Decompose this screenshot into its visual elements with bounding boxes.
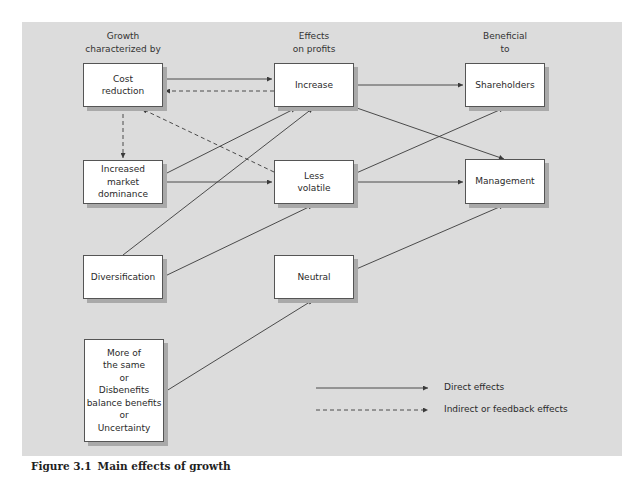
- node-increase: Increase: [274, 63, 354, 107]
- node-label: More of the same or Disbenefits balance …: [87, 347, 162, 435]
- legend-direct-label: Direct effects: [444, 382, 504, 392]
- figure-title: Main effects of growth: [98, 460, 231, 472]
- node-label: Neutral: [297, 271, 330, 284]
- edge-neutral-to-management: [354, 205, 504, 270]
- figure-number: Figure 3.1: [31, 460, 92, 472]
- node-label: Increased market dominance: [98, 163, 148, 201]
- node-label: Shareholders: [475, 79, 534, 92]
- figure-caption: Figure 3.1Main effects of growth: [31, 460, 231, 472]
- node-label: Management: [475, 175, 534, 188]
- edge-increase-to-management: [354, 107, 504, 159]
- node-neutral: Neutral: [274, 255, 354, 299]
- node-shareholders: Shareholders: [465, 63, 545, 107]
- edge-more-to-neutral: [163, 300, 313, 393]
- node-more-of-the-same: More of the same or Disbenefits balance …: [84, 339, 164, 442]
- node-label: Increase: [295, 79, 333, 92]
- node-label: Less volatile: [298, 170, 331, 195]
- node-label: Cost reduction: [102, 73, 145, 98]
- node-diversification: Diversification: [83, 255, 163, 299]
- node-management: Management: [465, 159, 545, 204]
- node-label: Diversification: [91, 271, 156, 284]
- node-increased-market-dominance: Increased market dominance: [83, 160, 163, 204]
- legend-indirect-label: Indirect or feedback effects: [444, 404, 568, 414]
- node-cost-reduction: Cost reduction: [83, 63, 163, 107]
- node-less-volatile: Less volatile: [274, 160, 354, 204]
